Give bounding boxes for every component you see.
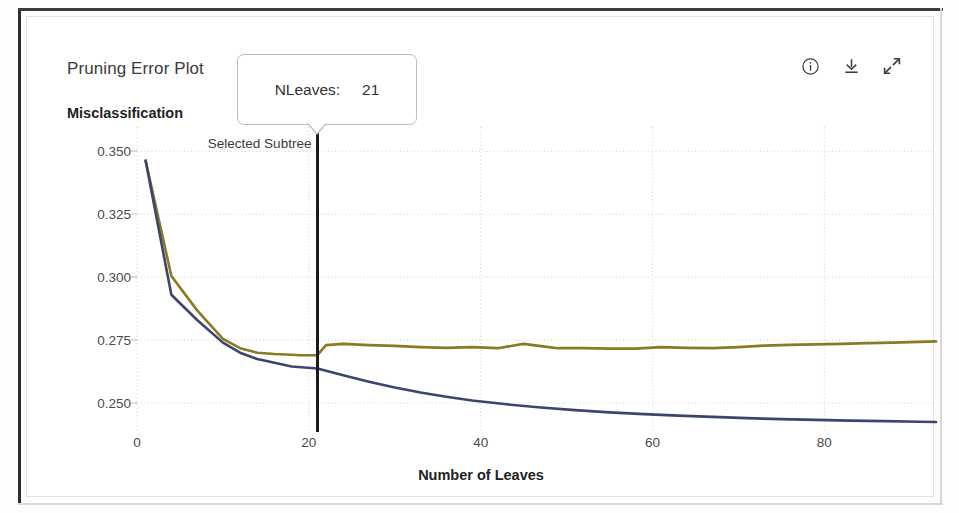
x-axis-tick-label: 80 — [817, 435, 832, 450]
selected-subtree-label: Selected Subtree — [208, 136, 316, 151]
y-axis-tick-label: 0.275 — [73, 333, 131, 348]
download-icon[interactable] — [840, 55, 862, 77]
y-axis-tick-mark — [131, 403, 137, 404]
page-title: Pruning Error Plot — [67, 59, 204, 79]
y-axis-tick-mark — [131, 214, 137, 215]
x-axis-tick-label: 40 — [473, 435, 488, 450]
plot-area — [137, 145, 936, 432]
y-axis-tick-mark — [131, 277, 137, 278]
series-line — [146, 161, 936, 356]
y-axis-tick-mark — [131, 340, 137, 341]
screenshot-root: Pruning Error Plot — [0, 0, 959, 513]
y-axis-tick-labels: 0.2500.2750.3000.3250.350 — [69, 145, 131, 432]
x-axis-title: Number of Leaves — [27, 467, 935, 483]
selected-subtree-marker[interactable] — [316, 127, 320, 432]
chart-panel: Pruning Error Plot — [26, 16, 934, 497]
window-frame-bottom — [18, 503, 943, 505]
y-axis-tick-label: 0.325 — [73, 207, 131, 222]
info-icon[interactable] — [799, 55, 821, 77]
y-axis-tick-label: 0.350 — [73, 144, 131, 159]
chart-toolbar — [799, 55, 903, 77]
expand-icon[interactable] — [881, 55, 903, 77]
plot-canvas — [137, 145, 936, 432]
y-axis-tick-mark — [131, 151, 137, 152]
x-axis-tick-label: 60 — [645, 435, 660, 450]
series-line — [146, 161, 936, 422]
y-axis-title: Misclassification — [67, 105, 183, 121]
window-frame-top — [18, 8, 943, 11]
y-axis-tick-label: 0.250 — [73, 396, 131, 411]
x-axis-tick-labels: 020406080 — [27, 435, 935, 459]
window-frame-left — [18, 8, 21, 505]
x-axis-tick-label: 0 — [133, 435, 141, 450]
nleaves-tooltip: NLeaves: 21 — [237, 54, 417, 125]
tooltip-value: 21 — [362, 81, 379, 99]
y-axis-tick-label: 0.300 — [73, 270, 131, 285]
x-axis-tick-label: 20 — [301, 435, 316, 450]
tooltip-pointer-icon — [307, 123, 327, 135]
tooltip-key: NLeaves: — [275, 81, 340, 99]
window-frame-right — [940, 8, 942, 505]
